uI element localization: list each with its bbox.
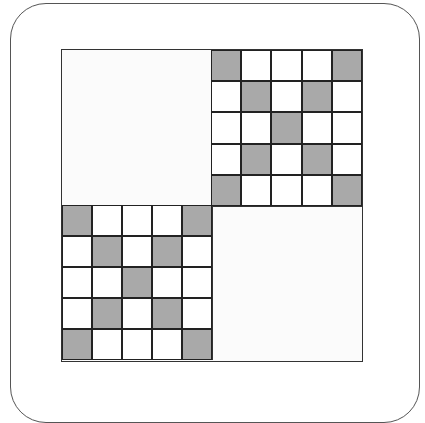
empty-cell [332, 144, 362, 175]
empty-cell [332, 81, 362, 112]
shaded-cell [92, 236, 122, 267]
empty-cell [241, 175, 271, 206]
empty-cell [62, 298, 92, 329]
shaded-cell [182, 205, 212, 236]
shaded-cell [271, 112, 301, 143]
empty-cell [92, 329, 122, 360]
empty-cell [211, 81, 241, 112]
empty-cell [62, 267, 92, 298]
shaded-cell [62, 329, 92, 360]
empty-cell [122, 236, 152, 267]
empty-cell [152, 329, 182, 360]
empty-cell [302, 175, 332, 206]
empty-cell [122, 298, 152, 329]
shaded-cell [182, 329, 212, 360]
empty-cell [182, 267, 212, 298]
empty-cell [211, 144, 241, 175]
quadrant-top-left [62, 50, 212, 205]
empty-cell [271, 144, 301, 175]
empty-cell [62, 236, 92, 267]
shaded-cell [152, 298, 182, 329]
empty-cell [271, 81, 301, 112]
empty-cell [92, 205, 122, 236]
shaded-cell [332, 50, 362, 81]
shaded-cell [62, 205, 92, 236]
shaded-cell [152, 236, 182, 267]
quadrant-bottom-right [212, 206, 362, 360]
empty-cell [152, 267, 182, 298]
shaded-cell [241, 144, 271, 175]
shaded-cell [211, 50, 241, 81]
empty-cell [211, 112, 241, 143]
shaded-cell [92, 298, 122, 329]
empty-cell [332, 112, 362, 143]
empty-cell [122, 329, 152, 360]
empty-cell [271, 50, 301, 81]
quadrant-bottom-left-grid [62, 205, 212, 360]
empty-cell [302, 50, 332, 81]
empty-cell [182, 298, 212, 329]
shaded-cell [302, 81, 332, 112]
shaded-cell [332, 175, 362, 206]
square-board [61, 49, 363, 362]
empty-cell [241, 112, 271, 143]
empty-cell [92, 267, 122, 298]
shaded-cell [211, 175, 241, 206]
empty-cell [182, 236, 212, 267]
empty-cell [152, 205, 182, 236]
quadrant-top-right-grid [211, 50, 362, 206]
shaded-cell [122, 267, 152, 298]
empty-cell [302, 112, 332, 143]
shaded-cell [241, 81, 271, 112]
empty-cell [271, 175, 301, 206]
empty-cell [241, 50, 271, 81]
shaded-cell [302, 144, 332, 175]
empty-cell [122, 205, 152, 236]
